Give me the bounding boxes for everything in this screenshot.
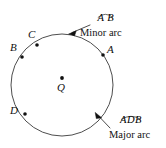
major-arc-leader xyxy=(95,112,110,128)
major-arc-name-row: ADB xyxy=(112,104,150,127)
point-dot-b xyxy=(20,55,24,59)
arc-diagram-figure: A B C D Q A B Minor arc ADB Major arc xyxy=(0,0,166,148)
major-arc-callout: ADB Major arc xyxy=(112,104,150,141)
point-dot-a xyxy=(101,53,105,57)
point-label-b: B xyxy=(10,42,17,53)
arc-overline-icon xyxy=(120,115,142,120)
minor-arc-name-wrapper: A B xyxy=(97,13,114,24)
point-label-d: D xyxy=(10,105,18,116)
center-point-label: Q xyxy=(57,82,65,93)
arc-overline-icon xyxy=(97,13,114,18)
point-dot-c xyxy=(35,43,39,47)
point-dot-d xyxy=(23,112,27,116)
minor-arc-name-row: A B xyxy=(90,2,122,25)
point-label-a: A xyxy=(107,44,114,55)
point-label-c: C xyxy=(28,29,35,40)
minor-arc-callout: A B Minor arc xyxy=(90,2,122,39)
major-arc-caption: Major arc xyxy=(109,130,150,141)
minor-arc-caption: Minor arc xyxy=(80,28,122,39)
major-arc-arrowhead xyxy=(95,112,101,118)
major-arc-name-wrapper: ADB xyxy=(120,115,142,126)
center-point-dot xyxy=(60,76,64,80)
minor-arc-arrowhead xyxy=(69,31,77,36)
